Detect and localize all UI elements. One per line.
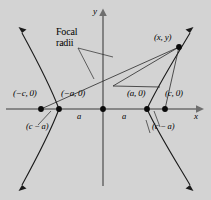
figure-canvas: [0, 0, 211, 200]
label-c-minus-a-right: (c − a): [152, 122, 174, 131]
hyperbola-focal-radii-figure: Focal radii (−c, 0) (−a, 0) (a, 0) (c, 0…: [0, 0, 211, 200]
focal-radii-annotation: Focal radii: [56, 27, 77, 48]
x-axis-label: x: [194, 112, 198, 121]
focal-radius-right: [165, 47, 179, 109]
label-curve-point: (x, y): [154, 33, 171, 42]
focal-radius-crossbar: [113, 86, 160, 87]
label-c-minus-a-left: (c − a): [26, 122, 48, 131]
focal-radii-leader-right: [78, 48, 113, 57]
focal-radii-line1: Focal: [56, 27, 77, 38]
y-axis-arrowhead: [99, 9, 107, 17]
label-a-left: a: [77, 112, 81, 121]
label-a-right: a: [122, 112, 126, 121]
point-marker-left-focus: [38, 106, 44, 112]
left-branch-lower-arrowhead: [19, 185, 27, 191]
point-marker-curve-point: [176, 44, 182, 50]
focal-radius-extension: [113, 47, 179, 86]
annotation-leader-group: [78, 48, 113, 79]
label-right-vertex: (a, 0): [127, 89, 145, 98]
point-marker-right-focus: [162, 106, 168, 112]
right-branch-lower-arrowhead: [186, 185, 194, 191]
left-branch-upper-arrowhead: [19, 27, 27, 33]
focal-radii-leader-left: [78, 48, 94, 79]
point-marker-left-vertex: [56, 106, 62, 112]
point-marker-right-vertex: [144, 106, 150, 112]
segment-leader-group: [38, 111, 160, 133]
point-marker-origin: [100, 106, 106, 112]
right-branch-upper-arrowhead: [186, 27, 194, 33]
focal-radii-line2: radii: [56, 38, 77, 49]
label-left-focus: (−c, 0): [13, 89, 37, 98]
label-left-vertex: (−a, 0): [61, 89, 85, 98]
c-minus-a-right-leader-2: [146, 120, 150, 133]
label-right-focus: (c, 0): [165, 89, 183, 98]
y-axis-label: y: [93, 7, 97, 16]
